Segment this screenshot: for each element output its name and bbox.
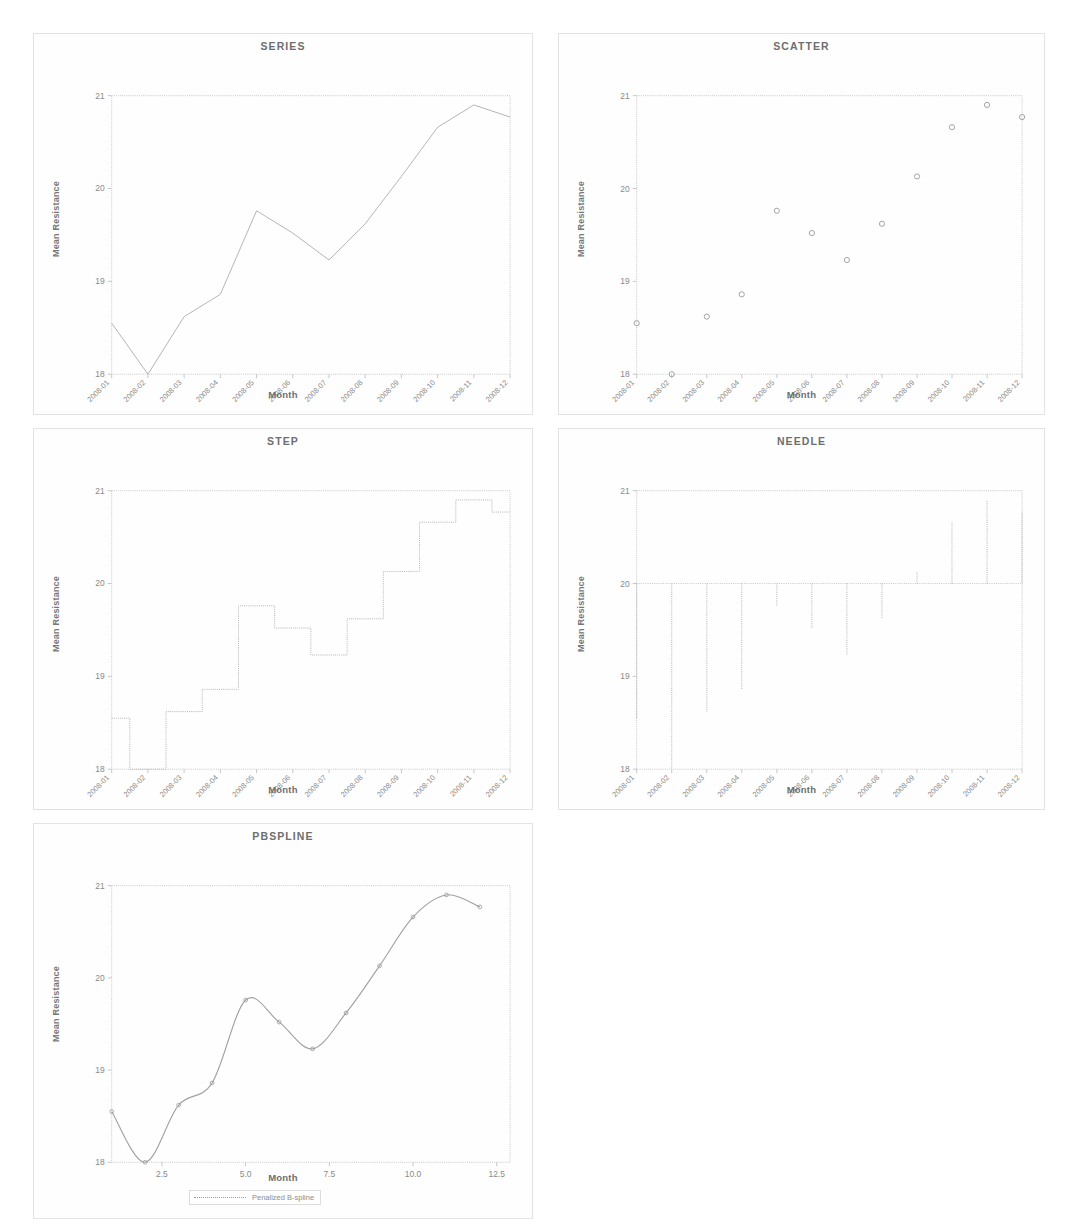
- scatter-x-axis-label: Month: [559, 389, 1044, 400]
- scatter-marker: [809, 230, 814, 235]
- panel-series: SERIES 181920212008-012008-022008-032008…: [33, 33, 533, 415]
- pbspline-y-tick-label: 18: [95, 1157, 105, 1167]
- pbspline-frame: [112, 886, 510, 1163]
- needle-plot-area: 181920212008-012008-022008-032008-042008…: [559, 429, 1044, 809]
- scatter-marker: [914, 174, 919, 179]
- legend-line-swatch-icon: [194, 1197, 246, 1198]
- step-y-axis-label: Mean Resistance: [51, 564, 61, 664]
- scatter-marker: [739, 292, 744, 297]
- pbspline-curve: [112, 895, 480, 1163]
- series-y-axis-label: Mean Resistance: [51, 169, 61, 269]
- series-y-tick-label: 19: [95, 276, 105, 286]
- scatter-y-tick-label: 18: [620, 369, 630, 379]
- scatter-marker: [844, 257, 849, 262]
- panel-step: STEP 181920212008-012008-022008-032008-0…: [33, 428, 533, 810]
- scatter-marker: [949, 125, 954, 130]
- needle-y-tick-label: 18: [620, 764, 630, 774]
- scatter-plot-area: 181920212008-012008-022008-032008-042008…: [559, 34, 1044, 414]
- pbspline-plot-area: 181920212.55.07.510.012.5: [34, 824, 532, 1218]
- series-line: [112, 105, 510, 374]
- pbspline-legend: Penalized B-spline: [189, 1190, 321, 1205]
- series-plot-area: 181920212008-012008-022008-032008-042008…: [34, 34, 532, 414]
- needle-y-tick-label: 21: [620, 486, 630, 496]
- panel-pbspline: PBSPLINE 181920212.55.07.510.012.5 Mean …: [33, 823, 533, 1219]
- scatter-marker: [984, 102, 989, 107]
- series-y-tick-label: 20: [95, 184, 105, 194]
- step-y-tick-label: 18: [95, 764, 105, 774]
- step-line: [112, 500, 510, 769]
- legend-entry-label: Penalized B-spline: [252, 1193, 314, 1202]
- scatter-marker: [774, 208, 779, 213]
- series-y-tick-label: 18: [95, 369, 105, 379]
- scatter-marker: [704, 314, 709, 319]
- needle-y-axis-label: Mean Resistance: [576, 564, 586, 664]
- scatter-y-tick-label: 20: [620, 184, 630, 194]
- scatter-marker: [879, 221, 884, 226]
- series-y-tick-label: 21: [95, 91, 105, 101]
- scatter-y-tick-label: 21: [620, 91, 630, 101]
- step-y-tick-label: 19: [95, 671, 105, 681]
- pbspline-y-tick-label: 19: [95, 1065, 105, 1075]
- step-y-tick-label: 20: [95, 579, 105, 589]
- needle-frame: [637, 491, 1022, 770]
- scatter-y-tick-label: 19: [620, 276, 630, 286]
- needle-x-axis-label: Month: [559, 784, 1044, 795]
- pbspline-y-tick-label: 20: [95, 973, 105, 983]
- pbspline-x-axis-label: Month: [34, 1172, 532, 1183]
- panel-scatter: SCATTER 181920212008-012008-022008-03200…: [558, 33, 1045, 415]
- scatter-frame: [637, 96, 1022, 375]
- pbspline-y-tick-label: 21: [95, 881, 105, 891]
- needle-y-tick-label: 20: [620, 579, 630, 589]
- scatter-y-axis-label: Mean Resistance: [576, 169, 586, 269]
- step-plot-area: 181920212008-012008-022008-032008-042008…: [34, 429, 532, 809]
- step-x-axis-label: Month: [34, 784, 532, 795]
- series-frame: [112, 96, 510, 375]
- needle-y-tick-label: 19: [620, 671, 630, 681]
- pbspline-y-axis-label: Mean Resistance: [51, 954, 61, 1054]
- panel-needle: NEEDLE 181920212008-012008-022008-032008…: [558, 428, 1045, 810]
- series-x-axis-label: Month: [34, 389, 532, 400]
- step-y-tick-label: 21: [95, 486, 105, 496]
